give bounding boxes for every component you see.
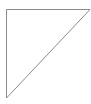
right-triangle-shape bbox=[7, 10, 91, 99]
triangle-diagram bbox=[0, 0, 91, 104]
